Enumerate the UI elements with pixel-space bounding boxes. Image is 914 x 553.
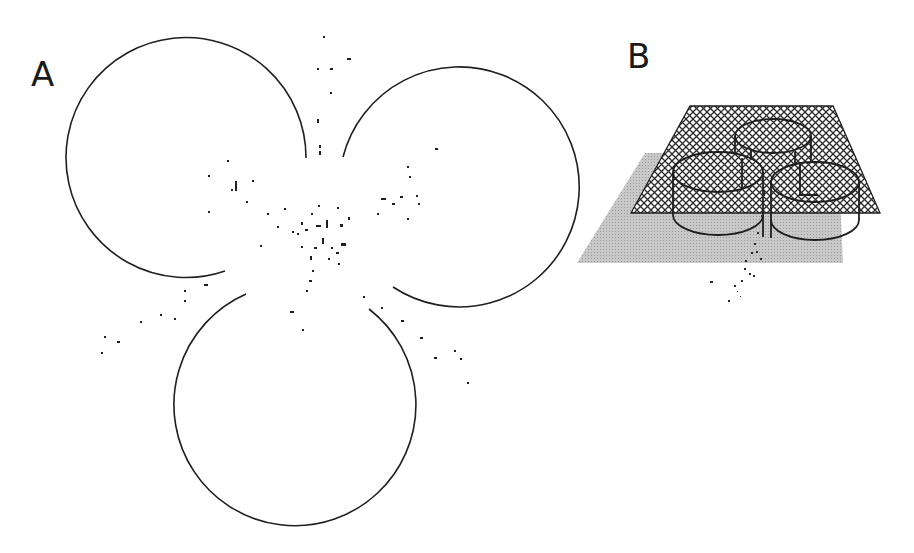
particle-traces-a (101, 36, 469, 384)
figure-canvas (0, 0, 914, 553)
panel-a (66, 38, 579, 526)
circle-upper-left (66, 38, 306, 278)
circle-upper-right (343, 67, 579, 307)
circle-bottom (174, 294, 416, 526)
panel-b (577, 106, 880, 302)
